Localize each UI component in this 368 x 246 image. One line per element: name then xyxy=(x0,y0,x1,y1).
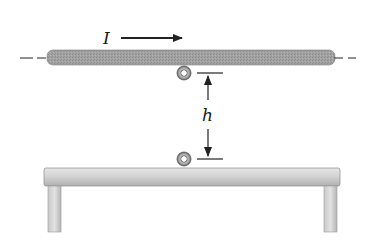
current-label: I xyxy=(102,28,110,48)
table-leg-left xyxy=(48,186,61,232)
diagram-canvas: I h xyxy=(0,0,368,246)
lower-wire-cross-section-icon xyxy=(177,152,191,166)
table-leg-right xyxy=(324,186,337,232)
table-top xyxy=(44,168,340,186)
upper-wire-rod xyxy=(20,50,356,65)
upper-wire-cross-section-icon xyxy=(177,66,191,80)
height-label: h xyxy=(202,105,213,125)
table xyxy=(44,168,340,232)
upper-rod-body xyxy=(47,50,335,65)
